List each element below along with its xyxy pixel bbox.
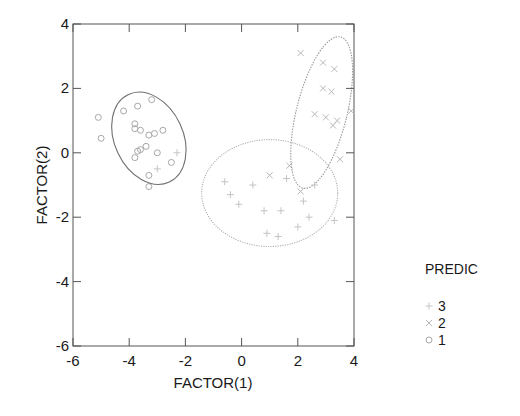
cross-marker [330, 122, 336, 128]
plus-marker [154, 165, 161, 172]
y-axis-title: FACTOR(2) [33, 146, 50, 225]
x-tick-label: -4 [123, 352, 136, 369]
plus-marker [426, 303, 433, 310]
cross-marker [267, 172, 273, 178]
plus-marker [221, 178, 228, 185]
cross-marker [426, 320, 432, 326]
series-1 [95, 80, 200, 197]
circle-marker [121, 108, 127, 114]
legend-label: 1 [438, 332, 446, 348]
plus-marker-icon [426, 303, 433, 310]
x-tick-label: -2 [179, 352, 192, 369]
circle-marker [426, 337, 432, 343]
plus-marker [249, 182, 256, 189]
plus-marker [300, 198, 307, 205]
series-2 [267, 31, 365, 195]
cross-marker [312, 111, 318, 117]
plus-marker [235, 201, 242, 208]
axis-ticks: -6-4-2024-6-4-2024 [56, 15, 359, 369]
circle-marker-icon [426, 337, 432, 343]
circle-marker [149, 97, 155, 103]
x-tick-label: 4 [350, 352, 358, 369]
plus-marker [173, 149, 180, 156]
circle-marker [135, 103, 141, 109]
plus-marker [277, 207, 284, 214]
cross-marker [331, 66, 337, 72]
plus-marker [275, 233, 282, 240]
legend-item-1: 1 [426, 332, 446, 348]
y-tick-label: -2 [56, 208, 69, 225]
legend-item-3: 3 [426, 298, 447, 314]
confidence-ellipse-2 [278, 31, 365, 194]
legend-label: 2 [438, 315, 446, 331]
confidence-ellipse-3 [202, 140, 338, 247]
cross-marker [329, 89, 335, 95]
legend-title: PREDIC [425, 261, 478, 277]
cross-marker [298, 188, 304, 194]
plus-marker [263, 230, 270, 237]
cross-marker [323, 114, 329, 120]
y-tick-label: 4 [61, 15, 69, 32]
circle-marker [98, 135, 104, 141]
circle-marker [146, 172, 152, 178]
circle-marker [132, 155, 138, 161]
cross-marker [337, 156, 343, 162]
cross-marker [298, 50, 304, 56]
circle-marker [168, 159, 174, 165]
plus-marker [294, 223, 301, 230]
circle-marker [151, 130, 157, 136]
circle-marker [146, 132, 152, 138]
circle-marker [154, 150, 160, 156]
y-tick-label: -4 [56, 273, 69, 290]
plus-marker [331, 217, 338, 224]
legend: PREDIC 3 2 1 [425, 261, 478, 348]
circle-marker [95, 114, 101, 120]
circle-marker [146, 184, 152, 190]
plus-marker [311, 182, 318, 189]
plus-marker [261, 207, 268, 214]
x-tick-label: -6 [66, 352, 79, 369]
legend-label: 3 [438, 298, 446, 314]
circle-marker [160, 127, 166, 133]
legend-item-2: 2 [426, 315, 446, 331]
plot-area [73, 24, 365, 346]
plus-marker [227, 191, 234, 198]
circle-marker [137, 127, 143, 133]
cross-marker-icon [426, 320, 432, 326]
circle-marker [143, 143, 149, 149]
plus-marker [283, 175, 290, 182]
series-3 [154, 140, 338, 247]
cross-marker [320, 60, 326, 66]
plus-marker [306, 214, 313, 221]
x-tick-label: 2 [294, 352, 302, 369]
cross-marker [348, 108, 354, 114]
scatter-plot: -6-4-2024-6-4-2024 FACTOR(1) FACTOR(2) P… [0, 0, 520, 416]
y-tick-label: 0 [61, 144, 69, 161]
cross-marker [320, 85, 326, 91]
x-axis-title: FACTOR(1) [174, 374, 253, 391]
y-tick-label: -6 [56, 337, 69, 354]
y-tick-label: 2 [61, 79, 69, 96]
x-tick-label: 0 [237, 352, 245, 369]
